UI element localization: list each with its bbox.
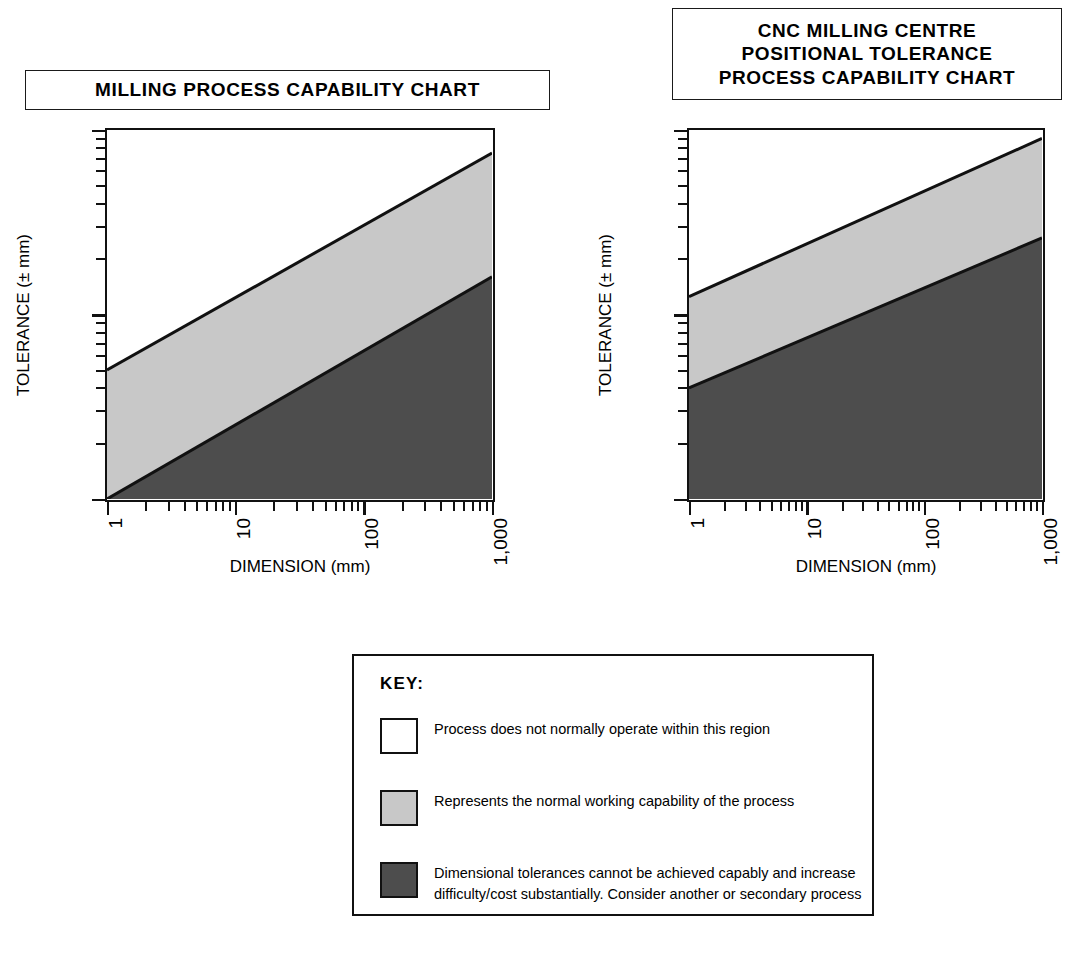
x-axis-tick	[402, 502, 404, 511]
x-axis-tick-label: 100	[922, 518, 944, 550]
x-axis-tick	[492, 502, 495, 515]
y-axis-tick	[674, 130, 687, 133]
chart-title-line: MILLING PROCESS CAPABILITY CHART	[95, 78, 480, 101]
y-axis-tick	[92, 499, 105, 502]
x-axis-tick	[771, 502, 773, 511]
y-axis-title: TOLERANCE (± mm)	[14, 215, 34, 415]
key-item: Process does not normally operate within…	[380, 718, 770, 754]
y-axis-tick	[678, 343, 687, 345]
x-axis-tick	[235, 502, 238, 515]
y-axis-tick	[96, 203, 105, 205]
x-axis-title: DIMENSION (mm)	[796, 557, 937, 577]
y-axis-tick	[678, 322, 687, 324]
y-axis-tick	[96, 355, 105, 357]
x-axis-tick	[479, 502, 481, 511]
x-axis-tick	[862, 502, 864, 511]
y-axis-tick	[96, 258, 105, 260]
x-axis-tick	[806, 502, 809, 515]
x-axis-tick	[424, 502, 426, 511]
x-axis-tick	[335, 502, 337, 511]
y-axis-tick	[96, 147, 105, 149]
x-axis-tick	[351, 502, 353, 511]
figure-caption-faint	[0, 947, 1088, 964]
y-axis-tick	[96, 387, 105, 389]
x-axis-tick	[1023, 502, 1025, 511]
y-axis-tick	[678, 170, 687, 172]
y-axis-tick	[678, 158, 687, 160]
x-axis-tick-label: 1	[105, 518, 127, 529]
x-axis-tick	[898, 502, 900, 511]
chart-title-box-cnc: CNC MILLING CENTRE POSITIONAL TOLERANCE …	[672, 8, 1062, 100]
x-axis-title: DIMENSION (mm)	[230, 557, 371, 577]
figure-page: MILLING PROCESS CAPABILITY CHART CNC MIL…	[0, 0, 1088, 964]
x-axis-tick	[842, 502, 844, 511]
y-axis-tick	[96, 370, 105, 372]
x-axis-tick	[924, 502, 927, 515]
x-axis-tick	[196, 502, 198, 511]
x-axis-tick	[453, 502, 455, 511]
x-axis-tick	[296, 502, 298, 511]
chart-title-line: POSITIONAL TOLERANCE	[742, 42, 993, 65]
x-axis-tick	[343, 502, 345, 511]
x-axis-tick	[689, 502, 692, 515]
y-axis-tick	[678, 355, 687, 357]
x-axis-tick	[486, 502, 488, 511]
x-axis-tick	[788, 502, 790, 511]
y-axis-tick	[96, 332, 105, 334]
x-axis-tick	[724, 502, 726, 511]
y-axis-tick	[678, 410, 687, 412]
x-axis-tick	[780, 502, 782, 511]
chart-title-box-milling: MILLING PROCESS CAPABILITY CHART	[25, 70, 550, 110]
x-axis-tick	[1030, 502, 1032, 511]
x-axis-tick	[906, 502, 908, 511]
y-axis-tick	[92, 130, 105, 133]
x-axis-tick	[1015, 502, 1017, 511]
x-axis-tick	[888, 502, 890, 511]
x-axis-tick	[206, 502, 208, 511]
x-axis-tick	[312, 502, 314, 511]
key-item-label: Represents the normal working capability…	[434, 790, 794, 812]
x-axis-tick	[325, 502, 327, 511]
x-axis-tick-label: 1,000	[1040, 518, 1062, 566]
x-axis-tick-label: 1	[687, 518, 709, 529]
x-axis-tick-label: 100	[361, 518, 383, 550]
chart-title-line: CNC MILLING CENTRE	[758, 19, 977, 42]
y-axis-tick	[678, 147, 687, 149]
x-axis-tick	[215, 502, 217, 511]
x-axis-tick	[759, 502, 761, 511]
y-axis-tick	[678, 185, 687, 187]
y-axis-tick	[678, 258, 687, 260]
x-axis-tick	[363, 502, 366, 515]
x-axis-tick	[440, 502, 442, 511]
key-item-label: Process does not normally operate within…	[434, 718, 770, 740]
x-axis-tick	[877, 502, 879, 511]
x-axis-tick	[168, 502, 170, 511]
key-swatch-difficult	[380, 862, 418, 898]
y-axis-tick	[96, 158, 105, 160]
key-heading: KEY:	[380, 674, 424, 694]
x-axis-tick	[145, 502, 147, 511]
x-axis-tick	[463, 502, 465, 511]
chart-title-line: PROCESS CAPABILITY CHART	[719, 66, 1016, 89]
plot-area-milling	[105, 128, 495, 502]
x-axis-tick-label: 1,000	[490, 518, 512, 566]
y-axis-tick	[678, 370, 687, 372]
x-axis-tick	[107, 502, 110, 515]
x-axis-tick	[222, 502, 224, 511]
y-axis-tick	[674, 314, 687, 317]
y-axis-tick	[96, 170, 105, 172]
y-axis-tick	[96, 443, 105, 445]
x-axis-tick	[357, 502, 359, 511]
x-axis-tick	[801, 502, 803, 511]
x-axis-tick	[918, 502, 920, 511]
y-axis-tick	[678, 332, 687, 334]
y-axis-tick	[96, 226, 105, 228]
x-axis-tick	[273, 502, 275, 511]
x-axis-tick	[745, 502, 747, 511]
y-axis-tick	[674, 499, 687, 502]
x-axis-tick	[912, 502, 914, 511]
key-swatch-outside	[380, 718, 418, 754]
y-axis-tick	[96, 138, 105, 140]
key-legend-box: KEY: Process does not normally operate w…	[352, 654, 874, 916]
y-axis-tick	[678, 226, 687, 228]
